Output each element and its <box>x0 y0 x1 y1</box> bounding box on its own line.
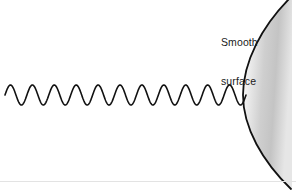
smooth-surface-label-line1: Smooth <box>221 36 258 49</box>
bottom-divider <box>0 181 296 182</box>
incident-wave <box>5 85 246 105</box>
figure-canvas: Smooth surface <box>0 0 296 192</box>
smooth-surface-label-line2: surface <box>221 75 258 88</box>
smooth-surface-label: Smooth surface <box>221 10 258 114</box>
